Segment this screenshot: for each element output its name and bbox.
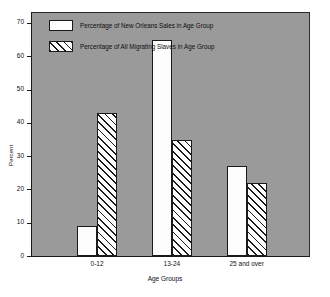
y-tick-label: 40 bbox=[17, 119, 24, 126]
bar-25-and-over-series1 bbox=[227, 166, 247, 256]
x-tick-label: 0-12 bbox=[91, 260, 104, 267]
y-axis-title: Percent bbox=[7, 134, 14, 178]
legend-item: Percentage of New Orleans Sales in Age G… bbox=[49, 19, 214, 31]
legend-label: Percentage of New Orleans Sales in Age G… bbox=[80, 22, 213, 29]
bar-0-12-series2 bbox=[97, 113, 117, 256]
legend-swatch-hatched bbox=[49, 41, 73, 52]
y-tick-label: 60 bbox=[17, 53, 24, 60]
y-tick-label: 30 bbox=[17, 153, 24, 160]
x-axis-title: Age Groups bbox=[0, 275, 330, 282]
x-tick-label: 25 and over bbox=[230, 260, 264, 267]
legend-label: Percentage of All Migrating Slaves in Ag… bbox=[80, 43, 214, 50]
y-tick-label: 0 bbox=[20, 253, 24, 260]
legend-swatch-solid bbox=[49, 20, 73, 31]
x-axis-line bbox=[31, 256, 310, 257]
y-tick-label: 20 bbox=[17, 186, 24, 193]
bar-0-12-series1 bbox=[77, 226, 97, 256]
bar-chart-figure: 010203040506070 Percent 0-1213-2425 and … bbox=[0, 0, 330, 297]
bar-25-and-over-series2 bbox=[247, 183, 267, 256]
bar-13-24-series2 bbox=[172, 140, 192, 257]
legend-item: Percentage of All Migrating Slaves in Ag… bbox=[49, 40, 214, 52]
y-tick-label: 70 bbox=[17, 19, 24, 26]
x-tick-label: 13-24 bbox=[164, 260, 181, 267]
y-tick-label: 10 bbox=[17, 219, 24, 226]
y-tick-mark bbox=[27, 256, 32, 257]
y-tick-label: 50 bbox=[17, 86, 24, 93]
bar-13-24-series1 bbox=[152, 40, 172, 256]
chart-legend: Percentage of New Orleans Sales in Age G… bbox=[49, 19, 214, 61]
